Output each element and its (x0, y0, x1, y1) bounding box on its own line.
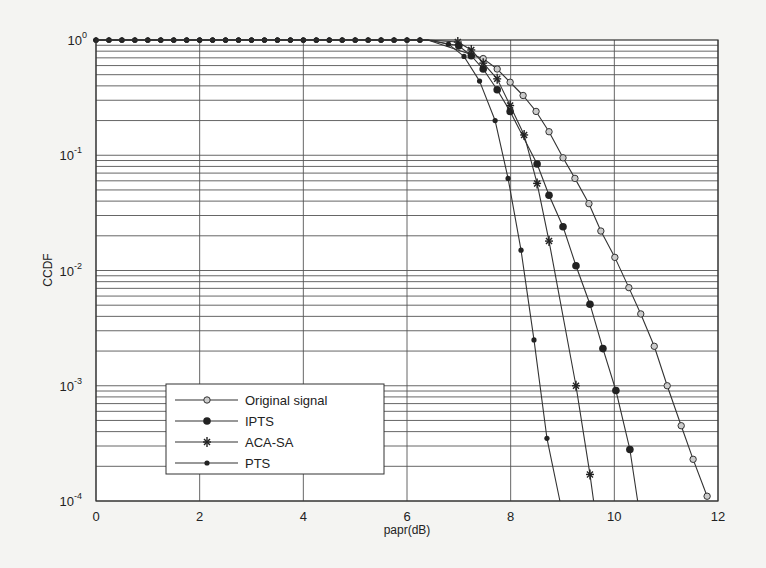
marker-open-circle (546, 129, 552, 135)
marker-filled-circle (626, 446, 634, 454)
legend-label: Original signal (245, 393, 327, 408)
x-tick-label: 2 (196, 509, 203, 524)
marker-filled-circle (612, 387, 620, 395)
x-tick-label: 4 (300, 509, 307, 524)
marker-dot (204, 460, 209, 465)
marker-open-circle (572, 175, 578, 181)
marker-open-circle (664, 383, 670, 389)
marker-open-circle (638, 311, 644, 317)
x-tick-labels: 024681012 (92, 509, 725, 524)
legend-label: IPTS (245, 414, 274, 429)
legend-label: PTS (245, 456, 271, 471)
marker-filled-circle (586, 300, 594, 308)
marker-open-circle (586, 200, 592, 206)
marker-filled-circle (545, 191, 553, 199)
marker-dot (477, 78, 482, 83)
x-axis-label: papr(dB) (384, 523, 431, 537)
marker-dot (518, 248, 523, 253)
marker-open-circle (520, 92, 526, 98)
marker-open-circle (533, 108, 539, 114)
y-tick-label: 10-4 (60, 491, 82, 509)
marker-filled-circle (599, 345, 607, 353)
marker-open-circle (704, 493, 710, 499)
marker-open-circle (678, 423, 684, 429)
marker-open-circle (612, 254, 618, 260)
marker-dot (493, 118, 498, 123)
marker-filled-circle (572, 262, 580, 270)
y-tick-label: 10-1 (60, 145, 82, 163)
marker-filled-circle (203, 417, 211, 425)
marker-filled-circle (493, 86, 501, 94)
marker-filled-circle (533, 160, 541, 168)
marker-dot (446, 42, 451, 47)
marker-open-circle (651, 343, 657, 349)
marker-open-circle (598, 228, 604, 234)
marker-open-circle (507, 79, 513, 85)
marker-dot (544, 436, 549, 441)
marker-dot (531, 337, 536, 342)
marker-open-circle (494, 66, 500, 72)
x-tick-label: 6 (403, 509, 410, 524)
marker-open-circle (560, 155, 566, 161)
y-tick-label: 10-2 (60, 261, 82, 279)
marker-filled-circle (559, 223, 567, 231)
marker-open-circle (690, 456, 696, 462)
y-axis-label: CCDF (41, 253, 55, 286)
y-tick-label: 10-3 (60, 376, 82, 394)
marker-open-circle (626, 284, 632, 290)
legend: Original signalIPTSACA-SAPTS (166, 384, 384, 474)
x-tick-label: 10 (607, 509, 621, 524)
marker-dot (461, 54, 466, 59)
x-tick-label: 0 (92, 509, 99, 524)
ccdf-chart: 024681012 10010-110-210-310-4 papr(dB) C… (0, 0, 766, 568)
legend-label: ACA-SA (245, 435, 294, 450)
y-tick-labels: 10010-110-210-310-4 (60, 30, 87, 509)
y-tick-label: 100 (68, 30, 87, 48)
marker-open-circle (204, 397, 210, 403)
x-tick-label: 12 (711, 509, 725, 524)
x-tick-label: 8 (507, 509, 514, 524)
marker-dot (505, 176, 510, 181)
